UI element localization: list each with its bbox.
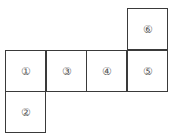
face-label: ③ <box>62 66 72 77</box>
face-label: ① <box>21 66 31 77</box>
face-1: ① <box>5 50 46 92</box>
face-label: ④ <box>102 66 112 77</box>
face-6: ⑥ <box>127 8 168 50</box>
face-label: ② <box>21 107 31 118</box>
face-4: ④ <box>86 50 127 92</box>
face-5: ⑤ <box>127 50 168 92</box>
face-3: ③ <box>46 50 87 92</box>
face-2: ② <box>5 91 46 133</box>
face-label: ⑤ <box>143 66 153 77</box>
face-label: ⑥ <box>143 24 153 35</box>
